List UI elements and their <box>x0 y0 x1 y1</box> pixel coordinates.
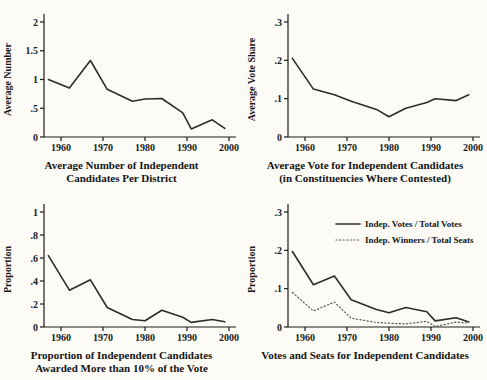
svg-text:0: 0 <box>33 132 38 143</box>
svg-text:Indep. Votes / Total Votes: Indep. Votes / Total Votes <box>365 219 462 229</box>
avg-number-plot: 196019701980199020000.511.52Average Numb… <box>0 0 243 158</box>
svg-text:1990: 1990 <box>177 142 197 153</box>
title-line-2: (in Constituencies Where Contested) <box>243 172 487 185</box>
avg-vote-title: Average Vote for Independent Candidates … <box>243 158 487 185</box>
svg-text:.2: .2 <box>31 299 39 310</box>
svg-text:1960: 1960 <box>295 332 315 343</box>
svg-text:.2: .2 <box>274 245 282 256</box>
svg-text:2000: 2000 <box>219 332 239 343</box>
svg-text:1: 1 <box>33 207 38 218</box>
svg-text:Average Vote Share: Average Vote Share <box>246 37 257 121</box>
title-line-2: Candidates Per District <box>0 172 243 185</box>
panel-prop-10pct: 196019701980199020000.2.4.6.81Proportion… <box>0 190 243 380</box>
title-line-1: Average Number of Independent <box>0 159 243 172</box>
svg-text:1970: 1970 <box>337 332 357 343</box>
title-line-1: Votes and Seats for Independent Candidat… <box>243 349 487 362</box>
votes-seats-title: Votes and Seats for Independent Candidat… <box>243 348 487 362</box>
svg-text:1980: 1980 <box>379 332 399 343</box>
svg-text:.3: .3 <box>274 17 282 28</box>
svg-text:1980: 1980 <box>135 142 155 153</box>
svg-text:1980: 1980 <box>379 142 399 153</box>
svg-text:.3: .3 <box>274 207 282 218</box>
avg-number-title: Average Number of Independent Candidates… <box>0 158 243 185</box>
panel-avg-vote: 196019701980199020000.1.2.3Average Vote … <box>243 0 487 190</box>
svg-text:2000: 2000 <box>219 142 239 153</box>
svg-text:1990: 1990 <box>177 332 197 343</box>
panel-votes-seats: 196019701980199020000.1.2.3ProportionInd… <box>243 190 487 380</box>
svg-text:2000: 2000 <box>463 332 483 343</box>
svg-text:.1: .1 <box>274 93 282 104</box>
prop-10pct-title: Proportion of Independent Candidates Awa… <box>0 348 243 375</box>
svg-text:2000: 2000 <box>463 142 483 153</box>
svg-text:1: 1 <box>33 74 38 85</box>
svg-text:1970: 1970 <box>93 332 113 343</box>
svg-text:Proportion: Proportion <box>2 246 13 293</box>
svg-text:0: 0 <box>277 322 282 333</box>
svg-text:1980: 1980 <box>135 332 155 343</box>
svg-text:0: 0 <box>33 322 38 333</box>
votes-seats-plot: 196019701980199020000.1.2.3ProportionInd… <box>244 190 487 348</box>
figure-page: 196019701980199020000.511.52Average Numb… <box>0 0 487 380</box>
svg-text:1960: 1960 <box>51 142 71 153</box>
avg-vote-plot: 196019701980199020000.1.2.3Average Vote … <box>244 0 487 158</box>
panel-avg-number: 196019701980199020000.511.52Average Numb… <box>0 0 243 190</box>
svg-text:1990: 1990 <box>421 332 441 343</box>
svg-text:1.5: 1.5 <box>26 45 39 56</box>
svg-text:1970: 1970 <box>93 142 113 153</box>
svg-text:.8: .8 <box>31 230 39 241</box>
title-line-1: Average Vote for Independent Candidates <box>243 159 487 172</box>
svg-text:.2: .2 <box>274 55 282 66</box>
svg-text:Indep. Winners / Total Seats: Indep. Winners / Total Seats <box>365 235 474 245</box>
svg-text:1960: 1960 <box>295 142 315 153</box>
svg-text:1990: 1990 <box>421 142 441 153</box>
svg-text:.1: .1 <box>274 283 282 294</box>
svg-text:Average Number: Average Number <box>2 43 13 116</box>
svg-text:Proportion: Proportion <box>246 246 257 293</box>
svg-text:2: 2 <box>33 17 38 28</box>
svg-text:1960: 1960 <box>51 332 71 343</box>
svg-text:.5: .5 <box>31 103 39 114</box>
svg-text:0: 0 <box>277 132 282 143</box>
svg-text:1970: 1970 <box>337 142 357 153</box>
prop-10pct-plot: 196019701980199020000.2.4.6.81Proportion <box>0 190 243 348</box>
svg-text:.4: .4 <box>31 276 39 287</box>
chart-grid: 196019701980199020000.511.52Average Numb… <box>0 0 487 380</box>
title-line-2: Awarded More than 10% of the Vote <box>0 362 243 375</box>
svg-text:.6: .6 <box>31 253 39 264</box>
title-line-1: Proportion of Independent Candidates <box>0 349 243 362</box>
